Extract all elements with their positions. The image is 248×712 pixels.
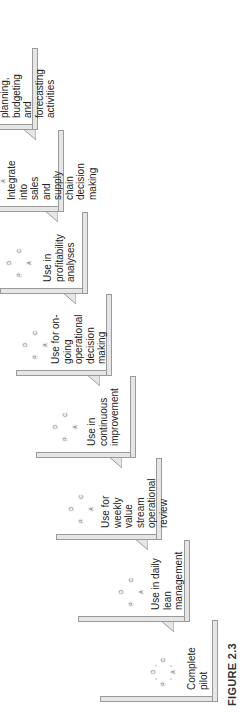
staircase-diagram: Complete pilot P D C A Use in daily lean… xyxy=(0,0,248,712)
pdca-cycle-icon: P D C A xyxy=(22,330,48,360)
step-label: Use for on- going operational decision m… xyxy=(50,315,108,364)
step-bar-horizontal xyxy=(184,540,190,622)
step-bar-vertical xyxy=(36,452,136,458)
step-bar-horizontal xyxy=(212,620,218,702)
step-label: Use in continuous improvement xyxy=(86,388,121,446)
step-bar-horizontal xyxy=(82,212,88,294)
step-label: Use for weekly value stream operational … xyxy=(100,479,169,528)
step-bar-vertical xyxy=(0,206,64,212)
step-label: Use in daily lean management xyxy=(150,552,185,610)
pdca-cycle-icon: P D C A xyxy=(6,248,32,278)
pdca-cycle-icon: P D C A xyxy=(0,166,6,196)
figure-label: FIGURE 2.3 xyxy=(226,643,238,706)
pdca-cycle-icon: P D C A xyxy=(118,577,144,607)
step-label: Use in profitability analyses xyxy=(42,234,77,282)
step-bar-vertical xyxy=(78,616,190,622)
step-bar-vertical xyxy=(16,370,112,376)
step-bar-vertical xyxy=(56,534,162,540)
step-bar-vertical xyxy=(0,288,88,294)
step-bar-vertical xyxy=(100,696,218,702)
step-label: Complete pilot xyxy=(186,647,209,690)
step-label: Integrate into sales and supply chain de… xyxy=(6,161,98,200)
pdca-cycle-icon: P D C A xyxy=(52,412,78,442)
pdca-cycle-icon: P D C A xyxy=(150,657,176,687)
pdca-cycle-icon: P D C A xyxy=(68,494,94,524)
step-bar-horizontal xyxy=(130,376,136,458)
step-label: Integrate into all planning, budgeting a… xyxy=(0,69,57,118)
